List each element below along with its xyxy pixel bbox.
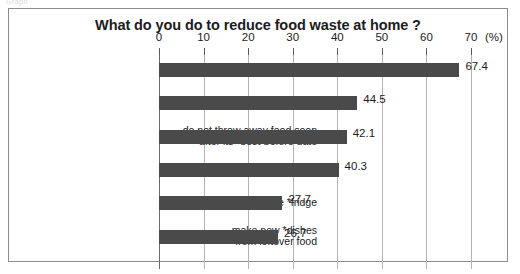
bar-row: make new *dishes from leftover food26.7	[159, 222, 471, 255]
tick-mark-0	[159, 48, 160, 55]
tick-mark-40	[337, 48, 338, 55]
chart-frame: What do you do to reduce food waste at h…	[8, 8, 508, 262]
bar-row: do not throw away food soon after its *b…	[159, 122, 471, 155]
bar	[159, 230, 278, 244]
bar	[159, 63, 459, 77]
bar-value-label: 40.3	[345, 160, 367, 172]
bar	[159, 130, 347, 144]
bar-row: only cook the food I will eat40.3	[159, 155, 471, 188]
scan-artifact-text: Graph	[6, 0, 28, 5]
tick-mark-30	[293, 48, 294, 55]
tick-label-60: 60	[420, 31, 433, 43]
bar-row: eat all the food on my *plate67.4	[159, 55, 471, 88]
tick-label-20: 20	[242, 31, 255, 43]
tick-mark-50	[382, 48, 383, 55]
tick-label-40: 40	[331, 31, 344, 43]
bar-value-label: 44.5	[363, 93, 385, 105]
tick-label-70: 70	[465, 31, 478, 43]
bar-value-label: 26.7	[284, 227, 306, 239]
bar	[159, 196, 282, 210]
tick-mark-70	[471, 48, 472, 55]
gridline-70	[471, 55, 472, 269]
tick-mark-20	[248, 48, 249, 55]
bar	[159, 96, 357, 110]
tick-label-10: 10	[197, 31, 210, 43]
tick-mark-60	[426, 48, 427, 55]
tick-mark-10	[204, 48, 205, 55]
bar	[159, 163, 339, 177]
tick-label-30: 30	[286, 31, 299, 43]
tick-label-50: 50	[375, 31, 388, 43]
plot-area: 010203040506070 (%) eat all the food on …	[159, 55, 471, 255]
bar-value-label: 27.7	[288, 193, 310, 205]
bar-value-label: 67.4	[465, 60, 487, 72]
bar-row: use the *freezer44.5	[159, 88, 471, 121]
axis-unit-label: (%)	[485, 31, 503, 43]
bar-value-label: 42.1	[353, 127, 375, 139]
tick-label-0: 0	[156, 31, 162, 43]
bar-row: know what is in the *fridge27.7	[159, 188, 471, 221]
